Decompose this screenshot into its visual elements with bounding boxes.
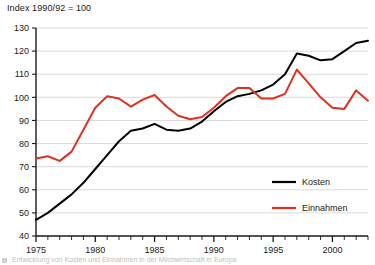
legend-label-einnahmen: Einnahmen: [302, 203, 348, 213]
y-axis-tick-label: 110: [15, 69, 29, 79]
square-bullet-icon: [2, 258, 7, 263]
series-line-einnahmen: [36, 70, 368, 161]
line-chart-plot: 405060708090100110120130 197519801985199…: [0, 0, 375, 265]
legend-label-kosten: Kosten: [302, 177, 330, 187]
y-axis-tick-label: 60: [19, 185, 29, 195]
y-axis-tick-label: 120: [14, 46, 29, 56]
y-axis-tick-label: 40: [19, 231, 29, 241]
caption-text: Entwicklung von Kosten und Einnahmen in …: [12, 257, 237, 263]
series-line-kosten: [36, 41, 368, 220]
x-axis-tick-label: 1985: [145, 245, 165, 255]
x-axis-tick-label: 1990: [204, 245, 224, 255]
y-axis-tick-label: 50: [19, 208, 29, 218]
y-axis-tick-label: 80: [19, 139, 29, 149]
y-axis-tick-label: 70: [19, 162, 29, 172]
chart-legend: KostenEinnahmen: [272, 177, 348, 213]
chart-container: Index 1990/92 = 100 40506070809010011012…: [0, 0, 375, 265]
data-series-group: [36, 41, 368, 220]
x-axis-tick-label: 2000: [322, 245, 342, 255]
y-axis-tick-label: 130: [14, 23, 29, 33]
x-axis-tick-label: 1995: [263, 245, 283, 255]
y-axis-tick-label: 90: [19, 116, 29, 126]
x-axis-tick-label: 1975: [26, 245, 46, 255]
x-axis-ticks-group: 197519801985199019952000: [26, 236, 368, 255]
y-axis-ticks-group: 405060708090100110120130: [14, 23, 36, 241]
x-axis-tick-label: 1980: [85, 245, 105, 255]
y-axis-tick-label: 100: [14, 93, 29, 103]
caption-strip: Entwicklung von Kosten und Einnahmen in …: [0, 257, 375, 265]
